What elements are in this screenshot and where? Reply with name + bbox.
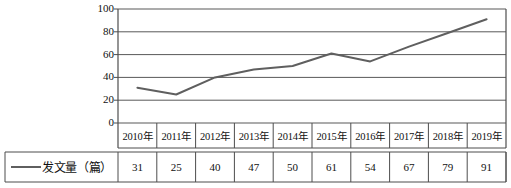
data-value-cell-9: 91 bbox=[467, 152, 506, 182]
data-value-cell-3: 47 bbox=[234, 152, 273, 182]
data-table-row: 发文量（篇） 31254047506154677991 bbox=[5, 152, 506, 182]
data-series-group bbox=[137, 19, 486, 94]
y-tick-label-100: 100 bbox=[84, 3, 114, 14]
y-tick-label-60: 60 bbox=[84, 49, 114, 60]
x-category-label-5: 2015年 bbox=[312, 123, 351, 148]
chart-figure: 020406080100 2010年2011年2012年2013年2014年20… bbox=[0, 0, 511, 188]
x-category-label-9: 2019年 bbox=[467, 123, 506, 148]
x-category-label-6: 2016年 bbox=[351, 123, 390, 148]
data-value-cell-4: 50 bbox=[273, 152, 312, 182]
data-value-cell-0: 31 bbox=[118, 152, 157, 182]
x-axis-category-labels: 2010年2011年2012年2013年2014年2015年2016年2017年… bbox=[118, 123, 506, 148]
y-tick-label-40: 40 bbox=[84, 71, 114, 82]
data-value-cell-6: 54 bbox=[351, 152, 390, 182]
data-value-cells: 31254047506154677991 bbox=[118, 152, 506, 182]
y-tick-label-0: 0 bbox=[84, 117, 114, 128]
x-category-label-2: 2012年 bbox=[196, 123, 235, 148]
x-category-label-8: 2018年 bbox=[428, 123, 467, 148]
data-value-cell-8: 79 bbox=[428, 152, 467, 182]
x-category-label-3: 2013年 bbox=[234, 123, 273, 148]
gridlines-group bbox=[118, 9, 506, 123]
legend-label: 发文量（篇） bbox=[42, 158, 112, 176]
data-value-cell-5: 61 bbox=[312, 152, 351, 182]
data-value-cell-2: 40 bbox=[196, 152, 235, 182]
data-value-cell-7: 67 bbox=[390, 152, 429, 182]
x-category-label-1: 2011年 bbox=[157, 123, 196, 148]
legend-entry: 发文量（篇） bbox=[5, 152, 118, 182]
y-tick-label-20: 20 bbox=[84, 94, 114, 105]
series-line-0 bbox=[137, 19, 486, 94]
x-category-label-4: 2014年 bbox=[273, 123, 312, 148]
x-category-label-7: 2017年 bbox=[390, 123, 429, 148]
y-tick-label-80: 80 bbox=[84, 26, 114, 37]
line-swatch-icon bbox=[11, 166, 41, 168]
data-value-cell-1: 25 bbox=[157, 152, 196, 182]
x-category-label-0: 2010年 bbox=[118, 123, 157, 148]
